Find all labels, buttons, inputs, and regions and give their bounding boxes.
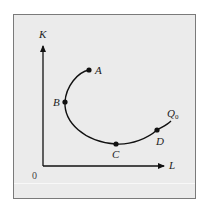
point-c-marker bbox=[113, 141, 118, 146]
point-b-label: B bbox=[53, 96, 60, 108]
curve-label-subscript: 0 bbox=[175, 113, 179, 121]
point-d-marker bbox=[154, 127, 159, 132]
x-axis-label: L bbox=[168, 159, 175, 171]
isoquant-diagram: K L 0 A B C D Q0 bbox=[0, 0, 206, 212]
curve-label-main: Q bbox=[167, 107, 175, 119]
point-b-marker bbox=[62, 99, 67, 104]
point-a-label: A bbox=[94, 64, 102, 76]
origin-label: 0 bbox=[32, 170, 37, 181]
point-c-label: C bbox=[112, 148, 120, 160]
point-d-label: D bbox=[155, 135, 164, 147]
isoquant-curve bbox=[65, 70, 171, 144]
curve-label: Q0 bbox=[167, 107, 179, 121]
y-axis-label: K bbox=[38, 28, 47, 40]
point-a-marker bbox=[86, 67, 91, 72]
